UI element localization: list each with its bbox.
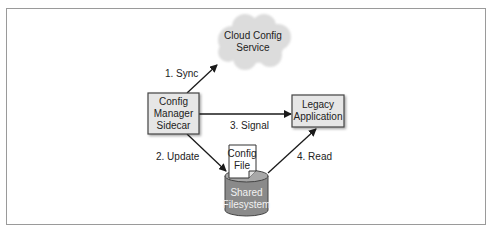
cloud-label-line1: Cloud Config [224, 30, 282, 41]
legacy-label-line2: Application [294, 111, 343, 122]
filesystem-label-line1: Shared [230, 187, 262, 198]
legacy-label-line1: Legacy [302, 99, 334, 110]
sidecar-label-line2: Manager [154, 108, 194, 119]
filesystem-label-line2: Filesystem [223, 199, 271, 210]
legacy-application-node: Legacy Application [292, 95, 344, 127]
update-label: 2. Update [156, 151, 200, 162]
diagram-canvas: Cloud Config Service 1. Sync 3. Signal 2… [0, 0, 492, 233]
config-file-label-line1: Config [228, 148, 257, 159]
cloud-config-service-node: Cloud Config Service [218, 14, 291, 70]
config-file-node: Config File [228, 145, 257, 178]
config-manager-sidecar-node: Config Manager Sidecar [148, 93, 199, 134]
sidecar-label-line3: Sidecar [157, 120, 192, 131]
config-file-label-line2: File [234, 160, 251, 171]
sidecar-label-line1: Config [159, 96, 188, 107]
signal-label: 3. Signal [230, 120, 269, 131]
cloud-label-line2: Service [236, 42, 270, 53]
sync-label: 1. Sync [165, 68, 198, 79]
read-label: 4. Read [297, 151, 332, 162]
